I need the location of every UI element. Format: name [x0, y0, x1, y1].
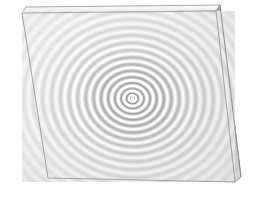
figure-container: 3D slab with concentric circular wave in…	[0, 0, 257, 205]
wave-pattern-slab-canvas	[0, 0, 257, 205]
